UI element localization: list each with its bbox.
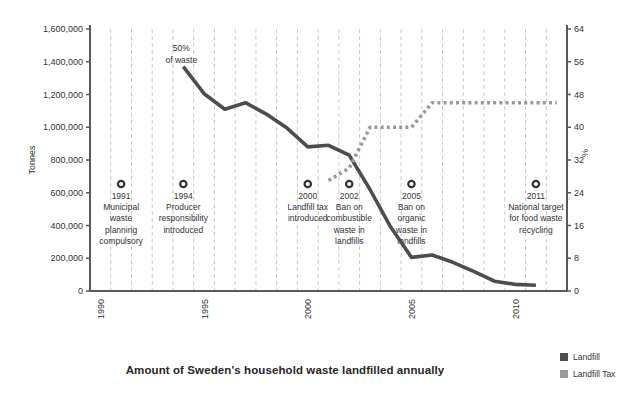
event-annotation-2011: 2011National targetfor food wasterecycli… (508, 181, 564, 235)
svg-text:600,000: 600,000 (50, 188, 83, 198)
svg-text:compulsory: compulsory (99, 236, 143, 246)
svg-text:0: 0 (574, 286, 579, 296)
waste-line-chart: 0200,000400,000600,000800,0001,000,0001,… (0, 0, 637, 348)
x-axis-labels: 19901995200020052010 (96, 299, 521, 319)
svg-text:0: 0 (78, 286, 83, 296)
event-marker-circle (118, 181, 124, 187)
svg-text:planning: planning (105, 225, 137, 235)
svg-text:2005: 2005 (402, 191, 421, 201)
svg-text:waste in: waste in (395, 225, 427, 235)
svg-text:of waste: of waste (165, 55, 197, 65)
svg-text:200,000: 200,000 (50, 253, 83, 263)
left-axis-title: Tonnes (27, 145, 37, 175)
event-marker-circle (533, 181, 539, 187)
svg-text:introduced: introduced (288, 213, 328, 223)
svg-text:1,400,000: 1,400,000 (43, 57, 83, 67)
svg-text:Ban on: Ban on (398, 202, 425, 212)
axis-titles: Tonnes% (27, 145, 590, 175)
event-marker-circle (346, 181, 352, 187)
event-annotation-2000: 2000Landfill taxintroduced (287, 181, 328, 224)
legend-item-landfill-tax: Landfill Tax (560, 369, 636, 379)
svg-text:Landfill tax: Landfill tax (287, 202, 328, 212)
svg-text:introduced: introduced (163, 225, 203, 235)
svg-text:1,200,000: 1,200,000 (43, 90, 83, 100)
landfill-swatch (560, 353, 568, 361)
svg-text:2000: 2000 (303, 299, 313, 319)
svg-text:2005: 2005 (407, 299, 417, 319)
svg-text:2011: 2011 (527, 191, 546, 201)
right-axis-ticks: 0816243240485664 (567, 24, 584, 296)
svg-text:1,000,000: 1,000,000 (43, 122, 83, 132)
svg-text:56: 56 (574, 57, 584, 67)
svg-text:recycling: recycling (519, 225, 553, 235)
event-annotation-2005: 2005Ban onorganicwaste inlandfills (395, 181, 427, 246)
right-axis-title: % (580, 149, 590, 157)
svg-text:1995: 1995 (200, 299, 210, 319)
event-marker-circle (180, 181, 186, 187)
svg-text:16: 16 (574, 221, 584, 231)
svg-text:responsibility: responsibility (159, 213, 209, 223)
svg-text:1,600,000: 1,600,000 (43, 24, 83, 34)
svg-text:for food waste: for food waste (509, 213, 563, 223)
legend-label-landfill-tax: Landfill Tax (573, 369, 615, 379)
svg-text:Municipal: Municipal (103, 202, 139, 212)
svg-text:800,000: 800,000 (50, 155, 83, 165)
svg-text:24: 24 (574, 188, 584, 198)
svg-text:40: 40 (574, 122, 584, 132)
chart-title: Amount of Sweden's household waste landf… (122, 364, 448, 376)
svg-text:2000: 2000 (298, 191, 317, 201)
svg-text:organic: organic (398, 213, 427, 223)
svg-text:8: 8 (574, 253, 579, 263)
legend: Landfill Landfill Tax (560, 352, 636, 379)
svg-text:National target: National target (508, 202, 564, 212)
svg-text:combustible: combustible (327, 213, 373, 223)
svg-text:2010: 2010 (511, 299, 521, 319)
svg-text:64: 64 (574, 24, 584, 34)
event-annotations: 1991Municipalwasteplanningcompulsory1994… (99, 181, 564, 246)
event-annotation-1991: 1991Municipalwasteplanningcompulsory (99, 181, 143, 246)
svg-text:2002: 2002 (340, 191, 359, 201)
svg-text:waste in: waste in (333, 225, 365, 235)
svg-text:50%: 50% (173, 43, 190, 53)
svg-text:400,000: 400,000 (50, 221, 83, 231)
axes (89, 25, 568, 291)
svg-text:1991: 1991 (112, 191, 131, 201)
event-annotation-2002: 2002Ban oncombustiblewaste inlandfills (327, 181, 373, 246)
event-marker-circle (305, 181, 311, 187)
svg-text:1990: 1990 (96, 299, 106, 319)
svg-text:48: 48 (574, 90, 584, 100)
left-axis-ticks: 0200,000400,000600,000800,0001,000,0001,… (43, 24, 90, 296)
event-annotation-1994: 1994Producerresponsibilityintroduced (159, 181, 209, 235)
event-marker-circle (408, 181, 414, 187)
legend-item-landfill: Landfill (560, 352, 636, 362)
svg-text:landfills: landfills (335, 236, 363, 246)
chart-page: 0200,000400,000600,000800,0001,000,0001,… (0, 0, 637, 403)
svg-text:1994: 1994 (174, 191, 193, 201)
point-annotation-50-percent: 50%of waste (165, 43, 197, 65)
landfill-tax-swatch (560, 370, 568, 378)
gridlines (111, 29, 547, 291)
legend-label-landfill: Landfill (573, 352, 600, 362)
svg-text:Producer: Producer (166, 202, 201, 212)
svg-text:waste: waste (109, 213, 132, 223)
svg-text:Ban on: Ban on (336, 202, 363, 212)
